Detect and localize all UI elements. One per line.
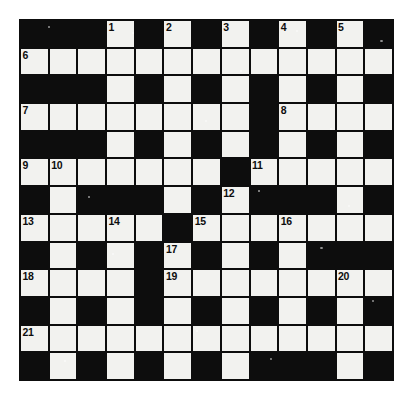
grid-open-cell[interactable] (49, 269, 78, 297)
grid-open-cell[interactable] (364, 325, 393, 353)
grid-open-cell[interactable] (278, 325, 307, 353)
grid-open-cell[interactable] (163, 131, 192, 159)
grid-open-cell[interactable]: 1 (106, 20, 135, 48)
grid-open-cell[interactable]: 7 (20, 103, 49, 131)
grid-open-cell[interactable] (77, 269, 106, 297)
grid-open-cell[interactable] (221, 297, 250, 325)
grid-open-cell[interactable] (278, 158, 307, 186)
grid-open-cell[interactable] (250, 325, 279, 353)
grid-open-cell[interactable] (106, 352, 135, 380)
grid-open-cell[interactable]: 2 (163, 20, 192, 48)
grid-open-cell[interactable] (221, 131, 250, 159)
grid-open-cell[interactable] (192, 325, 221, 353)
grid-open-cell[interactable] (364, 103, 393, 131)
grid-open-cell[interactable] (49, 325, 78, 353)
grid-open-cell[interactable] (307, 214, 336, 242)
grid-open-cell[interactable]: 10 (49, 158, 78, 186)
grid-open-cell[interactable]: 15 (192, 214, 221, 242)
grid-open-cell[interactable] (49, 352, 78, 380)
grid-open-cell[interactable]: 5 (336, 20, 365, 48)
grid-open-cell[interactable] (364, 269, 393, 297)
grid-open-cell[interactable] (336, 103, 365, 131)
grid-open-cell[interactable] (221, 48, 250, 76)
grid-open-cell[interactable] (49, 242, 78, 270)
grid-open-cell[interactable] (77, 48, 106, 76)
grid-open-cell[interactable] (77, 158, 106, 186)
grid-open-cell[interactable] (163, 75, 192, 103)
grid-open-cell[interactable] (250, 214, 279, 242)
grid-open-cell[interactable]: 17 (163, 242, 192, 270)
grid-open-cell[interactable] (106, 242, 135, 270)
grid-open-cell[interactable] (135, 103, 164, 131)
grid-open-cell[interactable] (307, 269, 336, 297)
grid-open-cell[interactable] (336, 352, 365, 380)
grid-open-cell[interactable] (336, 186, 365, 214)
grid-open-cell[interactable]: 11 (250, 158, 279, 186)
grid-open-cell[interactable] (49, 103, 78, 131)
grid-open-cell[interactable] (364, 48, 393, 76)
grid-open-cell[interactable] (192, 269, 221, 297)
grid-open-cell[interactable] (336, 48, 365, 76)
grid-open-cell[interactable] (135, 158, 164, 186)
grid-open-cell[interactable] (221, 103, 250, 131)
grid-open-cell[interactable] (163, 186, 192, 214)
grid-open-cell[interactable] (192, 158, 221, 186)
grid-open-cell[interactable] (336, 158, 365, 186)
grid-open-cell[interactable] (278, 242, 307, 270)
grid-open-cell[interactable] (135, 48, 164, 76)
grid-open-cell[interactable] (221, 242, 250, 270)
grid-open-cell[interactable] (163, 352, 192, 380)
grid-open-cell[interactable] (336, 325, 365, 353)
grid-open-cell[interactable] (221, 325, 250, 353)
grid-open-cell[interactable]: 14 (106, 214, 135, 242)
grid-open-cell[interactable] (221, 269, 250, 297)
grid-open-cell[interactable] (106, 158, 135, 186)
grid-open-cell[interactable] (250, 269, 279, 297)
grid-open-cell[interactable] (77, 325, 106, 353)
grid-open-cell[interactable] (106, 297, 135, 325)
grid-open-cell[interactable] (77, 214, 106, 242)
grid-open-cell[interactable]: 13 (20, 214, 49, 242)
grid-open-cell[interactable] (364, 214, 393, 242)
grid-open-cell[interactable] (364, 158, 393, 186)
grid-open-cell[interactable]: 12 (221, 186, 250, 214)
grid-open-cell[interactable] (135, 325, 164, 353)
grid-open-cell[interactable] (135, 214, 164, 242)
grid-open-cell[interactable] (192, 103, 221, 131)
grid-open-cell[interactable] (250, 48, 279, 76)
grid-open-cell[interactable] (49, 297, 78, 325)
grid-open-cell[interactable] (163, 158, 192, 186)
grid-open-cell[interactable]: 4 (278, 20, 307, 48)
grid-open-cell[interactable] (336, 214, 365, 242)
grid-open-cell[interactable] (278, 297, 307, 325)
grid-open-cell[interactable]: 6 (20, 48, 49, 76)
grid-open-cell[interactable] (278, 131, 307, 159)
grid-open-cell[interactable] (221, 352, 250, 380)
grid-open-cell[interactable] (307, 325, 336, 353)
grid-open-cell[interactable] (221, 214, 250, 242)
grid-open-cell[interactable]: 18 (20, 269, 49, 297)
crossword-grid[interactable]: 123456789101112131415161718192021 (19, 19, 394, 381)
grid-open-cell[interactable] (336, 131, 365, 159)
grid-open-cell[interactable] (163, 325, 192, 353)
grid-open-cell[interactable] (336, 297, 365, 325)
grid-open-cell[interactable]: 21 (20, 325, 49, 353)
grid-open-cell[interactable]: 19 (163, 269, 192, 297)
grid-open-cell[interactable]: 3 (221, 20, 250, 48)
grid-open-cell[interactable] (106, 325, 135, 353)
grid-open-cell[interactable]: 16 (278, 214, 307, 242)
grid-open-cell[interactable] (106, 103, 135, 131)
grid-open-cell[interactable] (307, 103, 336, 131)
grid-open-cell[interactable] (278, 75, 307, 103)
grid-open-cell[interactable] (163, 48, 192, 76)
grid-open-cell[interactable] (49, 48, 78, 76)
grid-open-cell[interactable] (106, 131, 135, 159)
grid-open-cell[interactable] (278, 48, 307, 76)
grid-open-cell[interactable] (221, 75, 250, 103)
grid-open-cell[interactable] (163, 297, 192, 325)
grid-open-cell[interactable]: 8 (278, 103, 307, 131)
grid-open-cell[interactable] (307, 158, 336, 186)
grid-open-cell[interactable] (49, 186, 78, 214)
grid-open-cell[interactable] (106, 48, 135, 76)
grid-open-cell[interactable] (163, 103, 192, 131)
